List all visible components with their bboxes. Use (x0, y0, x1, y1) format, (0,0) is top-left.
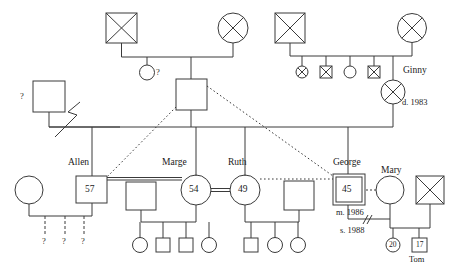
label-ginny-death: d. 1983 (402, 98, 428, 107)
person-square-unknown (33, 81, 65, 112)
person-circle (140, 65, 155, 80)
label-unknown-child-3: ? (81, 237, 85, 246)
dotted-relationship-lines (108, 86, 333, 179)
label-unknown-child-1: ? (42, 237, 46, 246)
label-unknown-maternal-aunt: ? (156, 68, 160, 77)
label-allen: Allen (68, 158, 89, 168)
note-marriage-year: m. 1986 (336, 208, 364, 217)
person-circle-child (202, 238, 217, 253)
person-square-ruth-partner (284, 181, 314, 210)
gen2-parents (33, 79, 207, 137)
person-square-child (156, 238, 170, 252)
label-mary: Mary (381, 166, 402, 176)
gen4-children (45, 216, 427, 253)
label-unknown-child-2: ? (62, 237, 66, 246)
person-circle-mary (376, 176, 404, 204)
label-ruth: Ruth (228, 158, 246, 168)
genogram-canvas: ? Ginny d. 1983 ? Allen Marge Ruth Georg… (0, 0, 453, 267)
person-square-child (244, 238, 258, 252)
label-ginny: Ginny (403, 66, 427, 76)
gen1-maternal-couple (106, 13, 248, 80)
person-circle-child (133, 238, 148, 253)
person-square-child (179, 238, 193, 252)
note-separation-year: s. 1988 (340, 226, 365, 235)
person-square-marge-partner (126, 182, 156, 210)
age-child-17: 17 (416, 241, 424, 249)
person-circle-child (291, 238, 306, 253)
label-tom: Tom (409, 255, 424, 264)
person-square-center (176, 79, 207, 110)
sibling-bar-gen3 (49, 127, 393, 176)
label-unknown-left-square: ? (20, 92, 24, 101)
dotted-line-center-to-george (207, 86, 333, 176)
age-child-20: 20 (389, 241, 397, 249)
person-circle-allen-partner (15, 176, 43, 204)
age-george: 45 (342, 185, 352, 195)
label-george: George (333, 158, 361, 168)
label-marge: Marge (162, 158, 187, 168)
age-marge: 54 (189, 185, 199, 195)
age-allen: 57 (85, 185, 95, 195)
genogram-drawing (0, 0, 453, 267)
age-ruth: 49 (238, 185, 248, 195)
separation-zigzag-icon (55, 102, 80, 137)
person-circle (344, 66, 356, 78)
person-circle-child (268, 238, 283, 253)
gen3-people (15, 174, 444, 228)
